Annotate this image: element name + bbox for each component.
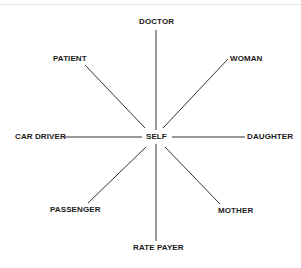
spoke-woman: [163, 59, 228, 128]
node-doctor: DOCTOR: [139, 17, 174, 27]
spoke-passenger: [88, 147, 146, 203]
node-rate-payer: RATE PAYER: [133, 243, 184, 253]
node-woman: WOMAN: [230, 54, 263, 64]
spoke-mother: [165, 147, 220, 204]
node-daughter: DAUGHTER: [247, 132, 293, 142]
node-passenger: PASSENGER: [50, 205, 101, 215]
node-mother: MOTHER: [218, 206, 253, 216]
node-car-driver: CAR DRIVER: [15, 132, 66, 142]
spoke-patient: [85, 65, 145, 128]
node-patient: PATIENT: [53, 54, 87, 64]
center-node-self: SELF: [146, 132, 167, 142]
